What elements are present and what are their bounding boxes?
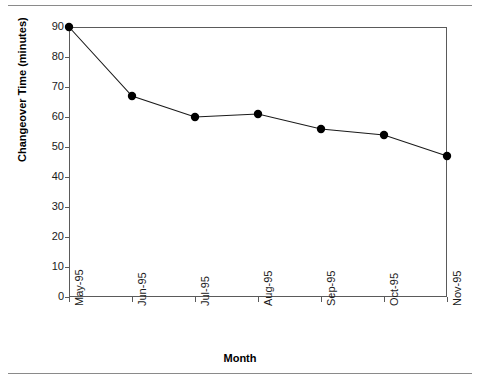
y-tick-mark — [65, 87, 69, 88]
y-tick-label: 20 — [40, 231, 64, 242]
y-tick-label: 90 — [40, 21, 64, 32]
y-tick-label: 40 — [40, 171, 64, 182]
x-tick-label: Jun-95 — [137, 272, 148, 306]
x-tick-label: Oct-95 — [389, 273, 400, 306]
page-rule-bottom — [8, 373, 472, 374]
page-rule-top — [8, 5, 472, 6]
x-tick-label: May-95 — [74, 269, 85, 306]
plot-area-frame — [69, 27, 447, 297]
y-tick-mark — [65, 27, 69, 28]
x-tick-mark — [195, 297, 196, 302]
y-tick-label: 70 — [40, 81, 64, 92]
x-axis-title: Month — [0, 352, 480, 364]
x-tick-mark — [321, 297, 322, 302]
figure: 0102030405060708090 May-95Jun-95Jul-95Au… — [0, 0, 480, 385]
y-tick-mark — [65, 147, 69, 148]
x-tick-mark — [69, 297, 70, 302]
y-tick-label: 80 — [40, 51, 64, 62]
y-tick-label: 50 — [40, 141, 64, 152]
x-tick-label: Jul-95 — [200, 276, 211, 306]
y-tick-mark — [65, 117, 69, 118]
y-tick-mark — [65, 267, 69, 268]
y-tick-label: 0 — [40, 291, 64, 302]
y-axis-title: Changeover Time (minutes) — [16, 17, 28, 162]
x-tick-label: Sep-95 — [326, 271, 337, 306]
x-tick-label: Nov-95 — [452, 271, 463, 306]
y-tick-mark — [65, 177, 69, 178]
x-tick-mark — [258, 297, 259, 302]
y-tick-label: 60 — [40, 111, 64, 122]
x-tick-mark — [132, 297, 133, 302]
y-tick-mark — [65, 237, 69, 238]
x-tick-label: Aug-95 — [263, 271, 274, 306]
y-tick-mark — [65, 57, 69, 58]
y-tick-label: 30 — [40, 201, 64, 212]
x-tick-mark — [447, 297, 448, 302]
y-tick-mark — [65, 207, 69, 208]
y-tick-label: 10 — [40, 261, 64, 272]
x-tick-mark — [384, 297, 385, 302]
